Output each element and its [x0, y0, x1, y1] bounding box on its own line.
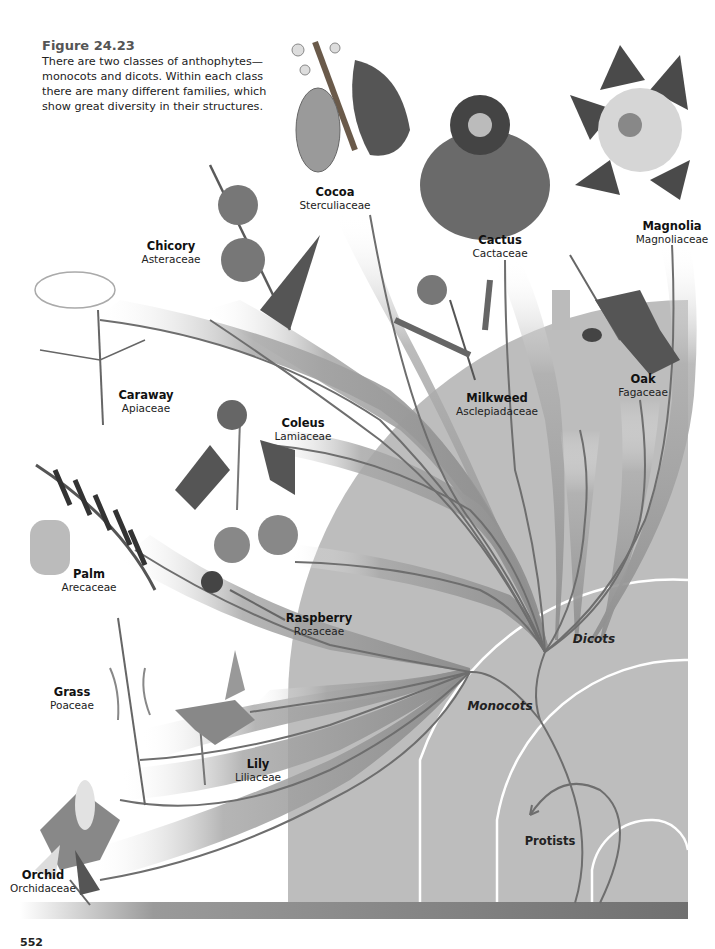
cactus-illustration — [420, 95, 550, 240]
plant-label-cactus: Cactus Cactaceae — [472, 234, 527, 260]
plant-family-name: Asclepiadaceae — [456, 405, 538, 418]
plant-common-name: Palm — [61, 568, 116, 581]
plant-common-name: Magnolia — [636, 220, 709, 233]
plant-label-grass: Grass Poaceae — [50, 686, 94, 712]
figure-caption: Figure 24.23 There are two classes of an… — [42, 38, 287, 114]
plant-label-milkweed: Milkweed Asclepiadaceae — [456, 392, 538, 418]
plant-label-orchid: Orchid Orchidaceae — [10, 869, 76, 895]
plant-family-name: Liliaceae — [235, 771, 281, 784]
clade-label-dicots: Dicots — [573, 632, 615, 646]
plant-label-palm: Palm Arecaceae — [61, 568, 116, 594]
magnolia-illustration — [570, 45, 690, 200]
plant-label-magnolia: Magnolia Magnoliaceae — [636, 220, 709, 246]
clade-label-monocots: Monocots — [467, 699, 532, 713]
plant-common-name: Grass — [50, 686, 94, 699]
plant-common-name: Caraway — [118, 389, 173, 402]
plant-family-name: Arecaceae — [61, 581, 116, 594]
plant-common-name: Cocoa — [299, 186, 370, 199]
plant-common-name: Coleus — [275, 417, 332, 430]
plant-family-name: Cactaceae — [472, 247, 527, 260]
plant-family-name: Fagaceae — [618, 386, 668, 399]
plant-family-name: Lamiaceae — [275, 430, 332, 443]
plant-common-name: Raspberry — [286, 612, 353, 625]
plant-label-chicory: Chicory Asteraceae — [141, 240, 200, 266]
plant-label-lily: Lily Liliaceae — [235, 758, 281, 784]
plant-common-name: Lily — [235, 758, 281, 771]
protists-label: Protists — [525, 834, 576, 848]
page-number: 552 — [20, 936, 43, 949]
figure-caption-text: There are two classes of anthophytes—mon… — [42, 54, 287, 114]
plant-common-name: Milkweed — [456, 392, 538, 405]
plant-label-raspberry: Raspberry Rosaceae — [286, 612, 353, 638]
plant-family-name: Sterculiaceae — [299, 199, 370, 212]
plant-family-name: Poaceae — [50, 699, 94, 712]
plant-label-caraway: Caraway Apiaceae — [118, 389, 173, 415]
cocoa-illustration — [292, 42, 410, 172]
plant-common-name: Cactus — [472, 234, 527, 247]
plant-label-coleus: Coleus Lamiaceae — [275, 417, 332, 443]
plant-common-name: Oak — [618, 373, 668, 386]
plant-family-name: Magnoliaceae — [636, 233, 709, 246]
plant-family-name: Apiaceae — [118, 402, 173, 415]
plant-family-name: Orchidaceae — [10, 882, 76, 895]
plant-family-name: Asteraceae — [141, 253, 200, 266]
plant-family-name: Rosaceae — [286, 625, 353, 638]
plant-label-oak: Oak Fagaceae — [618, 373, 668, 399]
figure-title: Figure 24.23 — [42, 38, 287, 54]
plant-label-cocoa: Cocoa Sterculiaceae — [299, 186, 370, 212]
plant-common-name: Chicory — [141, 240, 200, 253]
ground-bar — [20, 902, 688, 919]
plant-common-name: Orchid — [10, 869, 76, 882]
